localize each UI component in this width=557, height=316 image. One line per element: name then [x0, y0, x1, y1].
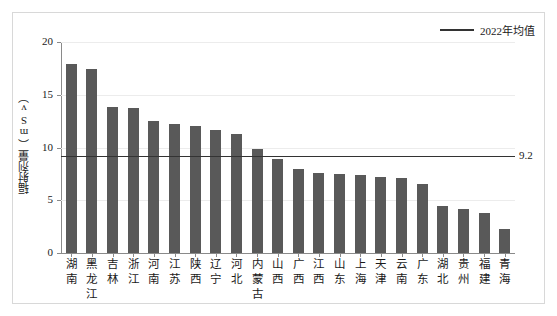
- x-tick-label: 云南: [395, 257, 409, 287]
- x-tick-label: 上海: [353, 257, 367, 287]
- y-tick-mark: [57, 200, 61, 201]
- bar: [86, 69, 97, 253]
- bar: [437, 206, 448, 253]
- y-tick-label: 0: [27, 246, 53, 258]
- x-tick-label: 内蒙古: [250, 257, 264, 302]
- bar: [479, 213, 490, 253]
- gridline: [61, 42, 515, 43]
- bar: [128, 108, 139, 253]
- x-tick-label: 浙江: [126, 257, 140, 287]
- bar: [148, 121, 159, 253]
- x-axis-labels: 湖南黑龙江吉林浙江河南江苏陕西辽宁河北内蒙古山西广西江西山东上海天津云南广东湖北…: [61, 257, 515, 313]
- bar: [355, 175, 366, 253]
- bar: [272, 159, 283, 253]
- y-tick-mark: [57, 253, 61, 254]
- y-tick-label: 5: [27, 193, 53, 205]
- bar: [313, 173, 324, 253]
- bar: [231, 134, 242, 253]
- chart-legend: 2022年均值: [440, 22, 535, 38]
- bar: [190, 126, 201, 253]
- bar: [375, 177, 386, 253]
- x-tick-label: 广西: [291, 257, 305, 287]
- bar: [396, 178, 407, 253]
- bar: [417, 184, 428, 253]
- x-tick-label: 辽宁: [209, 257, 223, 287]
- x-tick-label: 天津: [374, 257, 388, 287]
- bar: [252, 149, 263, 253]
- x-tick-label: 山西: [271, 257, 285, 287]
- average-reference-line: [61, 156, 515, 157]
- x-tick-label: 湖北: [436, 257, 450, 287]
- plot-area: 9.2: [61, 42, 515, 253]
- x-tick-label: 山东: [333, 257, 347, 287]
- average-value-label: 9.2: [519, 149, 533, 161]
- x-tick-label: 陕西: [188, 257, 202, 287]
- x-tick-label: 河南: [147, 257, 161, 287]
- bar: [334, 174, 345, 253]
- x-tick-label: 青海: [498, 257, 512, 287]
- bar: [107, 107, 118, 253]
- bar: [66, 64, 77, 253]
- y-tick-label: 15: [27, 88, 53, 100]
- x-tick-label: 福建: [477, 257, 491, 287]
- x-tick-label: 湖南: [64, 257, 78, 287]
- x-axis-line: [61, 253, 515, 254]
- x-tick-label: 广东: [415, 257, 429, 287]
- x-tick-label: 江苏: [168, 257, 182, 287]
- x-tick-label: 江西: [312, 257, 326, 287]
- bar: [458, 209, 469, 253]
- chart-figure: 2022年均值 辐射剂量（mSv） 9.2 05101520 湖南黑龙江吉林浙江…: [0, 0, 557, 316]
- bar: [169, 124, 180, 253]
- x-tick-label: 河北: [229, 257, 243, 287]
- y-tick-label: 10: [27, 141, 53, 153]
- x-tick-label: 黑龙江: [85, 257, 99, 302]
- bar: [293, 169, 304, 253]
- legend-line-marker: [440, 29, 474, 31]
- y-tick-label: 20: [27, 35, 53, 47]
- bar: [210, 130, 221, 253]
- y-tick-mark: [57, 95, 61, 96]
- x-tick-label: 贵州: [456, 257, 470, 287]
- y-tick-mark: [57, 148, 61, 149]
- gridline: [61, 95, 515, 96]
- legend-label-average: 2022年均值: [480, 22, 535, 38]
- x-tick-label: 吉林: [106, 257, 120, 287]
- y-tick-mark: [57, 42, 61, 43]
- bar: [499, 229, 510, 253]
